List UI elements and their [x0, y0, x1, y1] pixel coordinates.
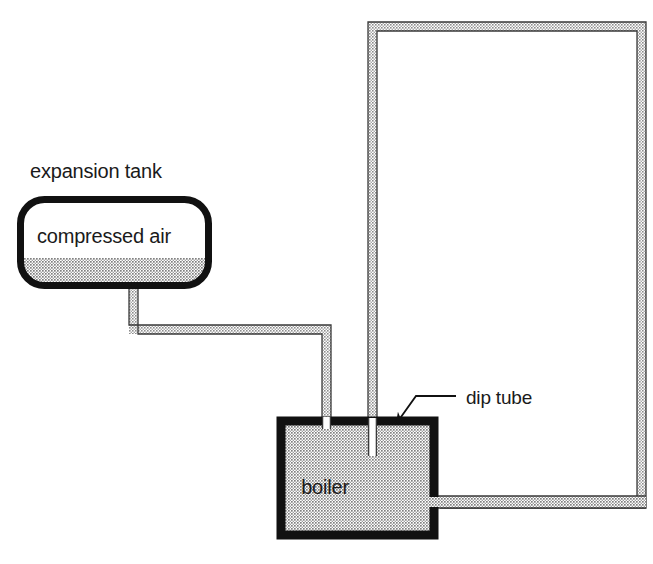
- compressed-air-label: compressed air: [37, 225, 171, 247]
- expansion-tank-label: expansion tank: [30, 160, 163, 182]
- tank-pipe-boiler-entry: [323, 417, 331, 429]
- dip-tube-label: dip tube: [466, 387, 532, 408]
- diagram-canvas: expansion tank compressed air boiler dip…: [0, 0, 653, 564]
- schematic-drawing: expansion tank compressed air boiler dip…: [0, 0, 653, 564]
- boiler-outlet-pipe: [424, 496, 646, 508]
- expansion-tank-connection-pipe: [129, 283, 331, 430]
- dip-tube: [368, 418, 377, 456]
- outlet-pipe-boiler-entry: [426, 497, 440, 507]
- boiler-label: boiler: [301, 476, 349, 498]
